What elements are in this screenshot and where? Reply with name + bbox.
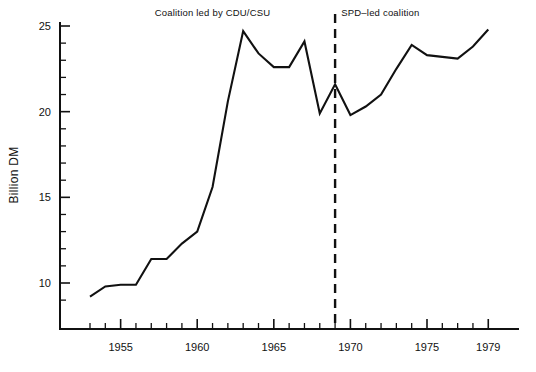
x-tick-label: 1979 [476, 341, 500, 353]
y-tick-label: 10 [39, 277, 51, 289]
series-line-defense-expenditure [90, 29, 488, 296]
chart-container: 10152025 195519601965197019751979 Coalit… [0, 0, 536, 372]
y-axis-title: Billion DM [7, 146, 21, 203]
y-tick-label: 25 [39, 20, 51, 32]
x-tick-label: 1975 [415, 341, 439, 353]
x-tick-label: 1970 [338, 341, 362, 353]
x-axis-ticks [90, 319, 488, 329]
line-chart: 10152025 195519601965197019751979 Coalit… [0, 0, 536, 372]
cdu-csu-era-label: Coalition led by CDU/CSU [155, 7, 271, 18]
y-axis-tick-labels: 10152025 [39, 20, 51, 289]
y-tick-label: 15 [39, 191, 51, 203]
x-axis-tick-labels: 195519601965197019751979 [108, 341, 500, 353]
chart-annotations: Coalition led by CDU/CSUSPD–led coalitio… [155, 7, 420, 18]
y-axis-ticks [60, 26, 70, 300]
spd-era-label: SPD–led coalition [341, 7, 419, 18]
data-series [90, 29, 488, 296]
x-tick-label: 1955 [108, 341, 132, 353]
x-tick-label: 1965 [262, 341, 286, 353]
y-tick-label: 20 [39, 106, 51, 118]
x-tick-label: 1960 [185, 341, 209, 353]
